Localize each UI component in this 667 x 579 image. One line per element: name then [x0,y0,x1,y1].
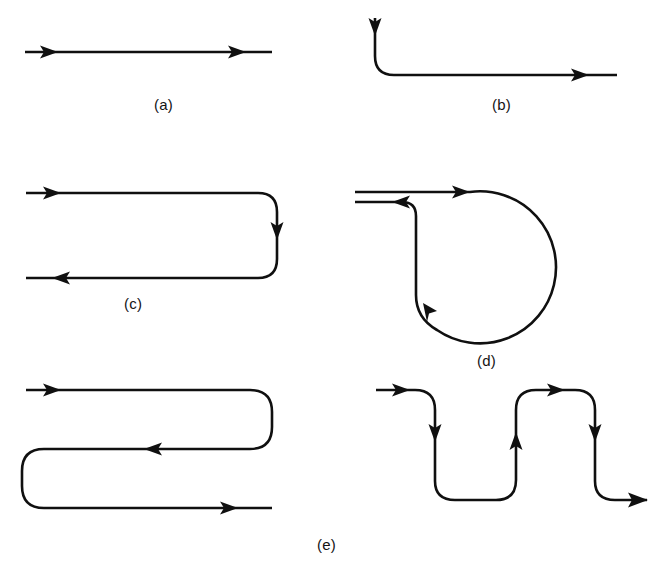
panel-b-line [375,18,617,75]
panel-a-caption: (a) [154,96,173,113]
panel-e-square-wave-path [376,384,648,508]
panel-b-bend-path [369,18,618,82]
panel-d-line [355,191,556,343]
panel-c-caption: (c) [124,295,142,312]
diagram-canvas [0,0,667,579]
panel-d-loop-path [355,186,556,344]
panel-b-caption: (b) [492,96,511,113]
panel-d-caption: (d) [477,352,496,369]
panel-e-serpentine-path [22,384,272,515]
panel-c-line [26,193,277,278]
panel-c-u-turn-path [26,187,284,285]
panel-a-straight-path [25,46,272,59]
panel-e-caption: (e) [317,536,336,553]
figure-root: (a) (b) (c) (d) (e) [0,0,667,579]
